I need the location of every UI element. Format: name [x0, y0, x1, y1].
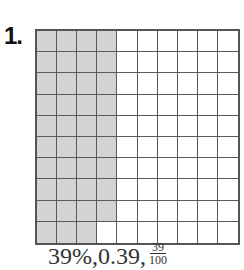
grid-cell-shaded [97, 52, 117, 73]
answer-decimal: 0.39 [98, 243, 140, 270]
grid-cell-shaded [37, 95, 57, 116]
grid-cell-shaded [77, 73, 97, 94]
grid-cell [117, 201, 137, 222]
grid-cell [117, 158, 137, 179]
grid-cell [178, 31, 198, 52]
grid-cell-shaded [37, 137, 57, 158]
grid-cell [117, 179, 137, 200]
grid-cell [218, 31, 238, 52]
grid-cell [198, 222, 218, 243]
fraction-denominator: 100 [149, 254, 167, 266]
grid-cell [178, 179, 198, 200]
grid-cell-shaded [97, 116, 117, 137]
grid-cell [138, 95, 158, 116]
grid-cell-shaded [77, 95, 97, 116]
grid-cell-shaded [77, 158, 97, 179]
grid-cell-shaded [97, 31, 117, 52]
grid-cell [218, 179, 238, 200]
answer-percent: 39% [48, 243, 92, 270]
grid-cell-shaded [97, 137, 117, 158]
grid-cell-shaded [77, 31, 97, 52]
grid-cell [218, 116, 238, 137]
grid-cell-shaded [37, 73, 57, 94]
grid-cell [138, 158, 158, 179]
grid-cell-shaded [57, 31, 77, 52]
cropped-header-text [30, 0, 244, 4]
grid-cell [178, 137, 198, 158]
grid-cell [218, 52, 238, 73]
grid-cell-shaded [77, 116, 97, 137]
grid-cell-shaded [57, 73, 77, 94]
grid-cell [158, 158, 178, 179]
grid-cell [198, 116, 218, 137]
grid-cell-shaded [97, 201, 117, 222]
hundred-grid [35, 29, 240, 245]
grid-cell-shaded [57, 179, 77, 200]
grid-cell-shaded [77, 222, 97, 243]
grid-cell-shaded [57, 222, 77, 243]
grid-cell-shaded [57, 95, 77, 116]
grid-cell [178, 95, 198, 116]
grid-cell [218, 95, 238, 116]
grid-cell [117, 31, 137, 52]
grid-cell [198, 179, 218, 200]
grid-cell [117, 52, 137, 73]
grid-cell [178, 222, 198, 243]
grid-cell [198, 158, 218, 179]
grid-cell [198, 201, 218, 222]
answer-separator: , [140, 243, 146, 270]
grid-cell [178, 116, 198, 137]
grid-cell-shaded [77, 201, 97, 222]
grid-cell-shaded [77, 137, 97, 158]
grid-cell-shaded [97, 95, 117, 116]
grid-cell [198, 73, 218, 94]
grid-cell [138, 52, 158, 73]
grid-cell [117, 222, 137, 243]
grid-cell-shaded [77, 179, 97, 200]
grid-cell [158, 137, 178, 158]
grid-cell [218, 201, 238, 222]
grid-cell [158, 73, 178, 94]
grid-cell [158, 116, 178, 137]
grid-cell [158, 179, 178, 200]
grid-cell-shaded [97, 73, 117, 94]
grid-cell [117, 137, 137, 158]
grid-cell [158, 95, 178, 116]
grid-cell-shaded [37, 31, 57, 52]
grid-cell [138, 201, 158, 222]
grid-cell [117, 73, 137, 94]
grid-cell-shaded [97, 179, 117, 200]
grid-cell [138, 73, 158, 94]
grid-cell-shaded [57, 158, 77, 179]
grid-cell-shaded [37, 201, 57, 222]
grid-cell [158, 31, 178, 52]
grid-cell-shaded [37, 222, 57, 243]
grid-cell [158, 52, 178, 73]
grid-cell-shaded [37, 179, 57, 200]
grid-cell [138, 31, 158, 52]
grid-cell [218, 73, 238, 94]
grid-cell-shaded [77, 52, 97, 73]
answer-fraction: 39 100 [149, 241, 167, 266]
grid-cell [117, 95, 137, 116]
grid-cell-shaded [97, 158, 117, 179]
grid-cell-shaded [57, 52, 77, 73]
problem-number: 1. [4, 22, 22, 50]
grid-cell [97, 222, 117, 243]
grid-cell-shaded [37, 158, 57, 179]
grid-cell [198, 31, 218, 52]
grid-cell [178, 158, 198, 179]
grid-cell-shaded [57, 116, 77, 137]
grid-cell [218, 158, 238, 179]
grid-cell-shaded [57, 201, 77, 222]
grid-cell [218, 222, 238, 243]
grid-cell [117, 116, 137, 137]
grid-cell-shaded [37, 52, 57, 73]
grid-cell [218, 137, 238, 158]
grid-cell-shaded [57, 137, 77, 158]
answer-text: 39% , 0.39 , 39 100 [48, 243, 167, 270]
grid-cell [178, 201, 198, 222]
grid-cell [138, 116, 158, 137]
grid-cell-shaded [37, 116, 57, 137]
grid-cell [138, 179, 158, 200]
